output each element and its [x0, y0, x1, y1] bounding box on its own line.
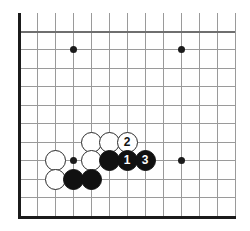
board-edge-top	[19, 31, 235, 33]
stone-black-move-3[interactable]: 3	[135, 150, 156, 171]
star-point-right	[178, 157, 185, 164]
grid-line-vertical	[127, 13, 128, 216]
grid-line-vertical	[181, 13, 182, 216]
move-number-label: 1	[124, 154, 131, 166]
grid-line-vertical	[145, 13, 146, 216]
star-point-upper-right	[178, 46, 185, 53]
stone-black[interactable]	[81, 169, 102, 190]
stone-white[interactable]	[45, 150, 66, 171]
grid-line-vertical	[109, 13, 110, 216]
star-point-upper-left	[70, 46, 77, 53]
move-number-label: 3	[142, 154, 149, 166]
goban-grid[interactable]: 213	[0, 0, 250, 231]
board-edge-bottom	[18, 216, 236, 219]
grid-line-vertical	[37, 13, 38, 216]
go-board-diagram: 213	[0, 0, 250, 231]
grid-line-vertical	[163, 13, 164, 216]
grid-line-vertical	[235, 13, 236, 216]
grid-line-vertical	[217, 13, 218, 216]
grid-line-vertical	[199, 13, 200, 216]
board-edge-left	[18, 13, 21, 219]
move-number-label: 2	[124, 136, 131, 148]
star-point-left	[70, 157, 77, 164]
